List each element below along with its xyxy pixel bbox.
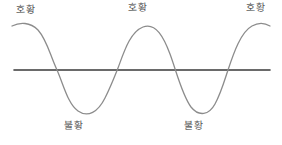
business-cycle-curve [12,23,270,114]
boom-label-left: 호황 [16,5,35,15]
business-cycle-diagram: 호황 호황 호황 불황 불황 [0,0,282,145]
recession-label-left: 불황 [64,121,83,132]
recession-label-right: 불황 [184,121,203,131]
boom-label-right: 호황 [246,3,265,13]
business-cycle-chart [0,0,282,145]
boom-label-center: 호황 [128,3,147,14]
